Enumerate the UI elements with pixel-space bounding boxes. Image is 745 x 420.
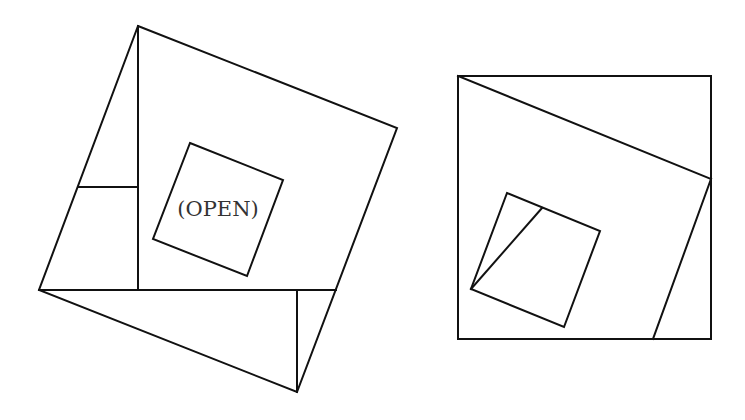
left-figure: (OPEN) <box>39 26 397 392</box>
right-figure <box>458 76 711 339</box>
diagram-canvas: (OPEN) <box>0 0 745 420</box>
right-inner-square <box>471 193 600 327</box>
right-segment-1 <box>653 179 711 339</box>
right-inner-diagonal <box>471 208 542 289</box>
open-label: (OPEN) <box>177 197 258 221</box>
right-segment-0 <box>458 76 711 179</box>
